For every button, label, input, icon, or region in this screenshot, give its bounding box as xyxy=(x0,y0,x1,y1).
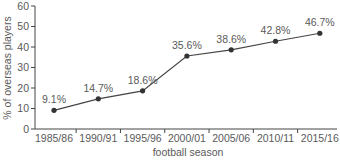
line-chart: 0102030405060 1985/861990/911995/962000/… xyxy=(0,0,340,161)
x-tick-label: 1995/96 xyxy=(124,132,162,144)
data-label: 9.1% xyxy=(42,93,66,105)
y-axis-label: % of overseas players xyxy=(1,16,13,119)
y-tick-label: 50 xyxy=(17,20,29,32)
data-point-marker xyxy=(229,47,234,52)
y-tick-label: 0 xyxy=(23,123,29,135)
x-tick-label: 1985/86 xyxy=(35,132,73,144)
data-series: 9.1%14.7%18.6%35.6%38.6%42.8%46.7% xyxy=(42,16,335,113)
y-tick-label: 40 xyxy=(17,41,29,53)
data-label: 46.7% xyxy=(305,16,335,28)
data-label: 38.6% xyxy=(216,33,246,45)
chart-canvas: 0102030405060 1985/861990/911995/962000/… xyxy=(0,0,340,161)
y-axis: 0102030405060 xyxy=(17,0,35,135)
y-tick-label: 10 xyxy=(17,102,29,114)
data-point-marker xyxy=(273,39,278,44)
x-axis-label: football season xyxy=(153,146,224,158)
data-label: 42.8% xyxy=(261,24,291,36)
data-point-marker xyxy=(184,53,189,58)
data-point-marker xyxy=(96,96,101,101)
y-tick-label: 20 xyxy=(17,82,29,94)
x-axis: 1985/861990/911995/962000/012005/062010/… xyxy=(35,129,339,144)
x-tick-label: 2015/16 xyxy=(301,132,339,144)
data-label: 14.7% xyxy=(83,82,113,94)
y-tick-label: 60 xyxy=(17,0,29,12)
x-tick-label: 2010/11 xyxy=(257,132,294,144)
x-tick-label: 2000/01 xyxy=(168,132,206,144)
data-label: 35.6% xyxy=(172,39,202,51)
data-label: 18.6% xyxy=(128,74,158,86)
y-tick-label: 30 xyxy=(17,61,29,73)
data-point-marker xyxy=(317,31,322,36)
data-point-marker xyxy=(140,88,145,93)
x-tick-label: 1990/91 xyxy=(79,132,117,144)
data-point-marker xyxy=(51,108,56,113)
x-tick-label: 2005/06 xyxy=(212,132,250,144)
